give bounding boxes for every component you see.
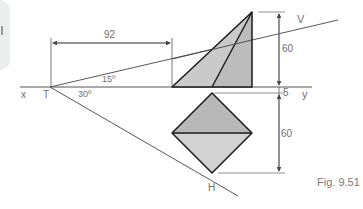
angle-30-label: 30º bbox=[78, 89, 92, 99]
label-T: T bbox=[43, 89, 49, 100]
label-y: y bbox=[302, 88, 308, 100]
dim-60-front-label: 60 bbox=[282, 43, 294, 54]
dim-5-label: 5 bbox=[283, 87, 289, 98]
dim-60-top-label: 60 bbox=[281, 128, 293, 139]
label-x: x bbox=[21, 89, 26, 100]
top-view-lower-half bbox=[172, 133, 252, 173]
dim-92-label: 92 bbox=[104, 29, 116, 40]
label-V: V bbox=[297, 13, 305, 25]
top-view-upper-half bbox=[172, 93, 252, 133]
label-H: H bbox=[208, 182, 215, 193]
angle-15-label: 15º bbox=[102, 74, 116, 84]
figure-caption: Fig. 9.51 bbox=[317, 176, 360, 188]
projection-diagram: 92 60 5 60 x T y V H 15º 30º bbox=[0, 0, 363, 209]
